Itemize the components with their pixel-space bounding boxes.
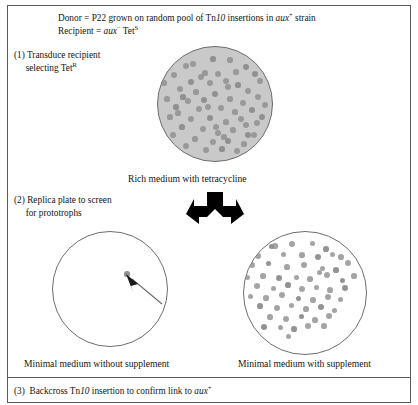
colony-dot	[299, 286, 305, 292]
colony-dot	[330, 252, 335, 257]
transduction-figure: Donor = P22 grown on random pool of Tn10…	[0, 0, 418, 405]
colony-dot	[188, 79, 195, 86]
colony-dot	[196, 106, 202, 112]
colony-dot	[192, 136, 197, 141]
colony-dot	[221, 134, 226, 139]
colony-dot	[307, 276, 313, 282]
colony-dot	[305, 323, 311, 329]
colony-dot	[185, 98, 191, 104]
colony-dot	[227, 96, 232, 101]
tn10-italic: 10	[216, 13, 225, 23]
colony-dot	[201, 97, 208, 104]
colony-dot	[278, 325, 283, 330]
colony-dot	[285, 282, 291, 288]
colony-dot	[230, 127, 235, 132]
colony-dot	[342, 285, 348, 291]
colony-dot	[259, 114, 265, 120]
colony-dot	[249, 107, 255, 113]
colony-dot	[235, 82, 240, 87]
colony-dot	[323, 246, 329, 252]
colony-dot	[333, 267, 339, 273]
plate-rich-tetracycline	[157, 46, 273, 162]
colony-dot	[254, 283, 260, 289]
figure-divider	[8, 377, 410, 378]
colony-dot	[315, 254, 321, 260]
colony-dot	[215, 130, 222, 137]
colony-dot	[210, 139, 216, 145]
colony-dot	[175, 110, 180, 115]
colony-dot	[272, 243, 278, 249]
colony-dot	[223, 119, 228, 124]
colony-dot	[198, 74, 205, 81]
colony-dot	[248, 294, 253, 299]
colony-dot	[205, 104, 211, 110]
colony-dot	[245, 88, 252, 95]
plate-minimal-with-supplement	[243, 231, 367, 355]
colony-dot	[219, 146, 224, 151]
tet-superscript: S	[135, 24, 139, 31]
colony-dot	[326, 313, 332, 319]
colony-dot	[324, 272, 330, 278]
colony-dot	[267, 314, 273, 320]
colony-dot	[179, 124, 184, 129]
colony-dot	[210, 56, 215, 61]
colony-dot	[243, 64, 249, 70]
step-text: Replica plate to screen	[27, 195, 111, 205]
colony-dot	[170, 132, 177, 139]
colony-dot	[164, 96, 169, 101]
colony-dot	[183, 63, 190, 70]
colony-dot	[212, 91, 218, 97]
step-text: Transduce recipient	[27, 50, 100, 60]
aux-gene: aux	[104, 26, 117, 36]
colony-pointer-arrow-icon	[118, 270, 164, 306]
colony-layer	[158, 47, 272, 161]
colony-dot	[240, 100, 246, 106]
caption-minimal-with-supplement: Minimal medium with supplement	[238, 358, 371, 369]
colony-dot	[254, 120, 261, 127]
colony-dot	[276, 275, 282, 281]
colony-dot	[321, 323, 327, 329]
premise-text: Donor = P22 grown on random pool of Tn10…	[58, 12, 316, 37]
colony-dot	[318, 304, 324, 310]
colony-dot	[338, 254, 344, 260]
step-1-label: (1) Transduce recipient selecting TetR	[14, 49, 100, 74]
tn10-italic: 10	[80, 386, 89, 396]
colony-dot	[332, 308, 337, 313]
colony-dot	[260, 273, 266, 279]
colony-dot	[310, 297, 316, 303]
colony-dot	[317, 270, 322, 275]
colony-dot	[340, 278, 345, 283]
colony-dot	[249, 262, 255, 268]
colony-dot	[173, 104, 178, 109]
colony-dot	[325, 294, 331, 300]
colony-dot	[303, 306, 309, 312]
colony-dot	[207, 115, 214, 122]
colony-dot	[301, 262, 307, 268]
colony-dot	[286, 334, 291, 339]
colony-dot	[294, 275, 299, 280]
colony-dot	[200, 126, 206, 132]
colony-dot	[167, 114, 172, 119]
step-number: (2)	[14, 195, 25, 205]
step-number: (3)	[14, 386, 25, 396]
colony-dot	[299, 314, 304, 319]
colony-dot	[190, 61, 196, 67]
premise-line1: Donor = P22 grown on random pool of Tn10…	[58, 13, 316, 23]
colony-dot	[291, 326, 297, 332]
colony-dot	[180, 94, 185, 99]
colony-dot	[310, 241, 315, 246]
colony-dot	[351, 273, 357, 279]
colony-dot	[314, 285, 319, 290]
step-number: (1)	[14, 50, 25, 60]
colony-dot	[263, 295, 269, 301]
colony-dot	[296, 296, 301, 301]
colony-dot	[312, 317, 318, 323]
aux-gene: aux	[276, 13, 289, 23]
colony-dot	[245, 275, 250, 280]
colony-dot	[243, 122, 250, 129]
colony-dot	[215, 71, 221, 77]
colony-dot	[289, 241, 295, 247]
colony-dot	[252, 71, 259, 78]
premise-line2: Recipient = aux− TetS	[58, 26, 138, 36]
colony-layer	[244, 232, 366, 354]
